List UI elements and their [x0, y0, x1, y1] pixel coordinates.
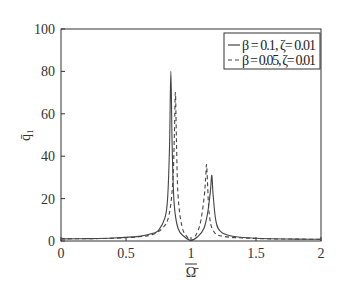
- x-tick-label: 0.5: [117, 246, 135, 261]
- series-line-solid: [61, 71, 321, 240]
- legend: β = 0.1, ζ= 0.01 β = 0.05, ζ= 0.01: [224, 33, 320, 69]
- x-axis-label: Ω̄: [186, 265, 199, 280]
- legend-entry-beta-0.1: β = 0.1, ζ= 0.01: [242, 38, 316, 53]
- x-tick-label: 2: [318, 246, 325, 261]
- y-axis-label: q̄₁: [18, 129, 33, 141]
- series-lines: [61, 71, 321, 240]
- chart: 020406080100 00.511.52 Ω̄ q̄₁ β = 0.1, ζ…: [0, 0, 340, 290]
- y-tick-label: 60: [41, 107, 55, 122]
- x-tick-label: 1: [188, 246, 195, 261]
- y-tick-label: 80: [41, 64, 55, 79]
- series-line-dashed: [61, 93, 321, 241]
- y-tick-label: 0: [48, 234, 55, 249]
- y-tick-label: 40: [41, 149, 55, 164]
- legend-entry-beta-0.05: β = 0.05, ζ= 0.01: [242, 53, 316, 68]
- y-axis: 020406080100: [34, 22, 65, 249]
- x-tick-label: 1.5: [247, 246, 265, 261]
- x-tick-label: 0: [58, 246, 65, 261]
- y-tick-label: 100: [34, 22, 55, 37]
- y-tick-label: 20: [41, 192, 55, 207]
